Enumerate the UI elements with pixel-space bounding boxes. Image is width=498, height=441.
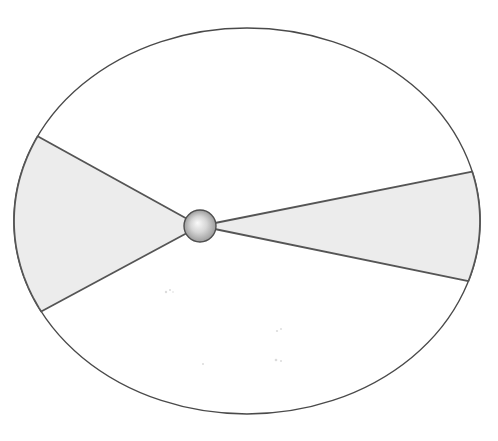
- scan-speckle: [169, 289, 171, 291]
- scan-speckle: [276, 330, 278, 332]
- central-body: [184, 210, 216, 242]
- scan-speckle: [275, 359, 278, 362]
- scan-speckle: [280, 328, 282, 330]
- scan-speckle: [165, 291, 167, 293]
- orbit-svg: [0, 0, 498, 441]
- orbit-diagram: [0, 0, 498, 441]
- scan-speckle: [202, 363, 204, 365]
- scan-speckle: [172, 291, 174, 293]
- scan-speckle: [280, 360, 282, 362]
